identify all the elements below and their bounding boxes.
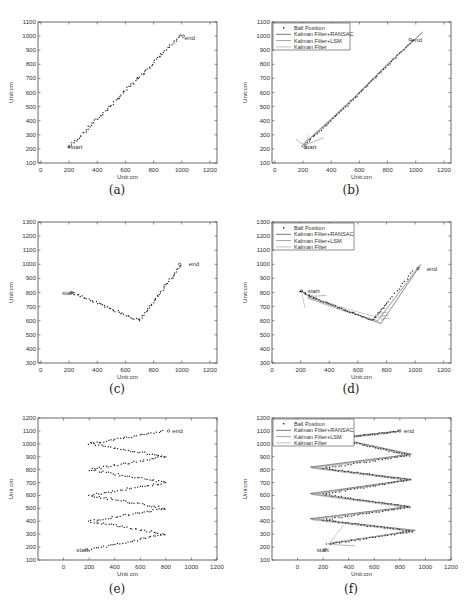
ball-position-point — [326, 302, 327, 303]
ball-position-point — [131, 462, 132, 463]
x-tick-label: 600 — [120, 166, 131, 173]
ball-position-point — [99, 303, 100, 304]
x-tick-label: 1200 — [437, 366, 451, 373]
ball-position-point — [354, 523, 355, 524]
ball-position-point — [341, 541, 342, 542]
ball-position-point — [91, 549, 92, 550]
ball-position-point — [156, 432, 157, 433]
ball-position-point — [388, 483, 389, 484]
ball-position-point — [397, 508, 398, 509]
ball-position-point — [149, 479, 150, 480]
ball-position-point — [129, 476, 130, 477]
ball-position-point — [384, 484, 385, 485]
ball-position-point — [139, 452, 140, 453]
y-axis-label: Unit:cm — [7, 282, 14, 303]
ball-position-point — [393, 528, 394, 529]
ball-position-point — [115, 499, 116, 500]
ball-position-point — [152, 454, 153, 455]
ball-position-point — [375, 77, 376, 78]
y-tick-label: 900 — [26, 274, 37, 281]
ball-position-point — [154, 454, 155, 455]
ball-position-point — [364, 462, 365, 463]
ball-position-point — [395, 504, 396, 505]
x-axis-label: Unit:cm — [351, 570, 372, 577]
ball-position-point — [127, 541, 128, 542]
ball-position-point — [316, 298, 317, 299]
ball-position-point — [132, 541, 133, 542]
ball-position-point — [159, 432, 160, 433]
ball-position-point — [114, 474, 115, 475]
ball-position-point — [341, 496, 342, 497]
ball-position-point — [386, 449, 387, 450]
ball-position-point — [388, 65, 389, 66]
ball-position-point — [142, 317, 143, 318]
ball-position-point — [379, 484, 380, 485]
ball-position-point — [404, 281, 405, 282]
ball-position-point — [88, 129, 89, 130]
ball-position-point — [365, 87, 366, 88]
y-tick-label: 700 — [26, 479, 37, 486]
ball-position-point — [140, 486, 141, 487]
end-label: end — [427, 265, 438, 272]
ball-position-point — [113, 104, 114, 105]
ball-position-point — [333, 305, 334, 306]
ball-position-point — [326, 467, 327, 468]
ball-position-point — [149, 67, 150, 68]
y-tick-label: 1200 — [22, 232, 36, 239]
x-tick-label: 600 — [353, 366, 364, 373]
y-tick-label: 500 — [260, 504, 271, 511]
ball-position-point — [118, 473, 119, 474]
ball-position-point — [359, 462, 360, 463]
ball-position-point — [335, 470, 336, 471]
ball-position-point — [338, 522, 339, 523]
ball-position-point — [95, 445, 96, 446]
ball-position-point — [387, 432, 388, 433]
ball-position-point — [375, 460, 376, 461]
ball-position-point — [337, 307, 338, 308]
ball-position-point — [91, 495, 92, 496]
x-tick-label: 400 — [110, 563, 121, 570]
ball-position-point — [400, 506, 401, 507]
y-axis-label: Unit:cm — [241, 479, 248, 500]
y-axis-label: Unit:cm — [241, 82, 248, 103]
ball-position-point — [129, 503, 130, 504]
legend-entry: Ball Position — [294, 225, 325, 231]
ball-position-point — [350, 464, 351, 465]
ball-position-point — [353, 463, 354, 464]
ball-position-point — [110, 105, 111, 106]
y-tick-label: 1000 — [256, 32, 270, 39]
ball-position-point — [152, 509, 153, 510]
ball-position-point — [134, 451, 135, 452]
ball-position-point — [341, 517, 342, 518]
ball-position-point — [385, 304, 386, 305]
ball-position-point — [352, 312, 353, 313]
ball-position-point — [358, 435, 359, 436]
ball-position-point — [372, 537, 373, 538]
x-tick-label: 1000 — [409, 166, 423, 173]
ball-position-point — [156, 509, 157, 510]
ball-position-point — [407, 45, 408, 46]
ball-position-point — [344, 471, 345, 472]
ball-position-point — [160, 534, 161, 535]
ball-position-point — [399, 289, 400, 290]
y-tick-label: 1000 — [256, 440, 270, 447]
ball-position-point — [335, 466, 336, 467]
x-tick-label: 200 — [64, 366, 75, 373]
ball-position-point — [347, 105, 348, 106]
ball-position-point — [106, 466, 107, 467]
ball-position-point — [93, 442, 94, 443]
y-tick-label: 800 — [260, 466, 271, 473]
ball-position-point — [141, 434, 142, 435]
ball-position-point — [396, 55, 397, 56]
x-tick-label: 200 — [295, 366, 306, 373]
ball-position-point — [132, 477, 133, 478]
ball-position-point — [306, 294, 307, 295]
ball-position-point — [375, 502, 376, 503]
ball-position-point — [378, 475, 379, 476]
ball-position-point — [387, 476, 388, 477]
ball-position-point — [370, 525, 371, 526]
ball-position-point — [94, 119, 95, 120]
ball-position-point — [103, 442, 104, 443]
ball-position-point — [412, 532, 413, 533]
x-tick-label: 1200 — [444, 563, 458, 570]
